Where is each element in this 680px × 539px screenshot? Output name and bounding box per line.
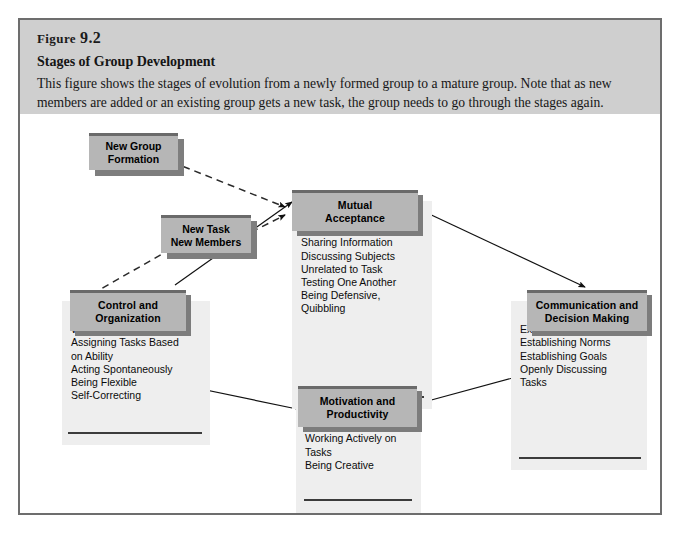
stage-header: Communication and Decision Making	[527, 290, 647, 331]
stage-title-line1: Control and	[98, 299, 158, 312]
stage-header: Mutual Acceptance	[292, 190, 418, 231]
stage-mutual-acceptance[interactable]: Making Acquaintances Sharing Information…	[292, 190, 418, 409]
stage-communication-and-decision-making[interactable]: Expressing Attitudes Establishing Norms …	[527, 290, 647, 470]
figure-subtitle: Stages of Group Development	[37, 54, 215, 70]
stage-title-line1: Motivation and	[320, 395, 395, 408]
stage-control-and-organization[interactable]: Working Interdependently Assigning Tasks…	[70, 290, 186, 445]
stage-title-line2: Decision Making	[545, 312, 629, 325]
stage-bottom-rule	[519, 457, 641, 459]
stage-title-line1: Communication and	[536, 299, 639, 312]
box-title-line1: New Task	[182, 223, 230, 236]
figure-description: This figure shows the stages of evolutio…	[37, 75, 641, 112]
box-title-line2: Formation	[108, 153, 159, 166]
stage-title-line2: Organization	[95, 312, 160, 325]
stage-title-line1: Mutual	[338, 199, 372, 212]
stage-motivation-and-productivity[interactable]: Cooperating Working Actively on Tasks Be…	[298, 386, 417, 513]
box-new-task-new-members[interactable]: New Task New Members	[161, 215, 251, 253]
connector-communication-and-decision-making-to-motivation-and-productivity	[424, 376, 520, 402]
connector-control-and-organization-to-new-task-new-members	[92, 253, 164, 294]
box-face: New Task New Members	[161, 215, 251, 253]
diagram-canvas: Mutual Acceptance (dashed) --> Mutual Ac…	[20, 114, 660, 513]
stage-title-line2: Productivity	[327, 408, 389, 421]
stage-bottom-rule	[68, 432, 202, 434]
stage-title-line2: Acceptance	[325, 212, 385, 225]
box-title-line1: New Group	[105, 140, 161, 153]
figure-label-number: 9.2	[80, 29, 101, 46]
box-title-line2: New Members	[171, 236, 242, 249]
stage-bottom-rule	[304, 499, 412, 501]
box-new-group-formation[interactable]: New Group Formation	[89, 133, 178, 170]
figure-frame: Figure 9.2 Stages of Group Development T…	[18, 18, 662, 515]
stage-header: Control and Organization	[70, 290, 186, 331]
stage-items: Making Acquaintances Sharing Information…	[301, 223, 406, 314]
box-face: New Group Formation	[89, 133, 178, 170]
connector-new-group-formation-to-mutual-acceptance	[172, 162, 285, 207]
figure-label: Figure 9.2	[37, 29, 101, 47]
connector-mutual-acceptance-to-communication-and-decision-making	[425, 212, 585, 287]
stage-header: Motivation and Productivity	[298, 386, 417, 427]
figure-label-word: Figure	[37, 31, 76, 46]
